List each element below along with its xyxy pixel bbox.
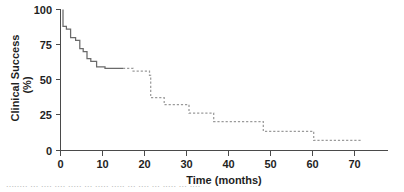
x-tick-label-0: 0 bbox=[57, 158, 63, 170]
x-tick-label-60: 60 bbox=[306, 158, 318, 170]
y-tick-label-25: 25 bbox=[40, 109, 52, 121]
x-tick-label-10: 10 bbox=[96, 158, 108, 170]
x-tick-label-50: 50 bbox=[264, 158, 276, 170]
survival-curve-solid bbox=[63, 10, 123, 69]
x-axis-title: Time (months) bbox=[186, 174, 262, 186]
y-tick-label-75: 75 bbox=[40, 39, 52, 51]
figure-caption-strip: ........ ... .... .... ..... ... ..... .… bbox=[0, 186, 404, 192]
survival-curve-dotted bbox=[123, 68, 362, 140]
x-tick-label-30: 30 bbox=[180, 158, 192, 170]
x-tick-label-40: 40 bbox=[222, 158, 234, 170]
figure-caption-text: ........ ... .... .... ..... ... ..... .… bbox=[6, 186, 398, 189]
y-tick-label-0: 0 bbox=[46, 145, 52, 157]
x-axis-ticks bbox=[61, 151, 355, 157]
y-axis-ticks bbox=[56, 10, 61, 151]
y-axis-tick-labels: 100 75 50 25 0 bbox=[34, 4, 52, 157]
y-tick-label-100: 100 bbox=[34, 4, 52, 16]
x-tick-label-20: 20 bbox=[138, 158, 150, 170]
x-tick-label-70: 70 bbox=[348, 158, 360, 170]
kaplan-meier-chart: 100 75 50 25 0 0 10 20 30 40 50 60 70 Ti… bbox=[0, 0, 404, 192]
y-axis-title-line1: Clinical Success bbox=[9, 35, 21, 122]
y-tick-label-50: 50 bbox=[40, 74, 52, 86]
figure-container: 100 75 50 25 0 0 10 20 30 40 50 60 70 Ti… bbox=[0, 0, 404, 192]
x-axis-tick-labels: 0 10 20 30 40 50 60 70 bbox=[57, 158, 360, 170]
y-axis-title-line2: (%) bbox=[21, 76, 33, 93]
